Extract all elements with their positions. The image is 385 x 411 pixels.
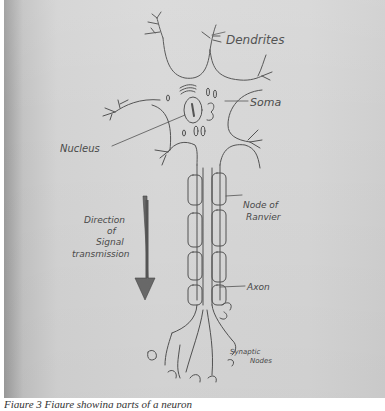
leader-lines [112,32,248,287]
synaptic-terminals [148,303,236,382]
neuron-sketch-photo: Dendrites Soma Nucleus Node of Ranvier D… [4,0,385,398]
neuron-diagram: Dendrites Soma Nucleus Node of Ranvier D… [4,0,385,398]
dendrites [103,12,272,165]
label-soma: Soma [250,96,281,109]
label-axon: Axon [246,282,270,292]
soma-outline [115,38,262,168]
nucleus [167,85,217,136]
label-node-of-ranvier: Node of Ranvier [243,200,282,222]
direction-arrow [135,196,155,300]
label-synaptic-nodes: Synaptic Nodes [230,348,272,365]
label-direction-of-signal: Direction of Signal transmission [72,215,130,259]
axon [188,165,226,305]
label-nucleus: Nucleus [60,143,100,154]
figure-caption: Figure 3 Figure showing parts of a neuro… [4,398,385,411]
labels: Dendrites Soma Nucleus Node of Ranvier D… [60,33,284,365]
label-dendrites: Dendrites [226,33,284,47]
